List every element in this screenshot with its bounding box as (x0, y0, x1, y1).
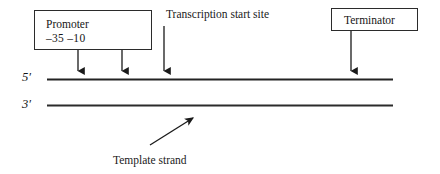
transcription-diagram: Promoter –35 –10 Terminator Transcriptio… (0, 0, 440, 174)
template-strand-label: Template strand (113, 155, 187, 167)
promoter-label: Promoter (46, 18, 89, 30)
promoter-consensus-sites-label: –35 –10 (46, 32, 85, 44)
promoter-box: Promoter –35 –10 (34, 10, 152, 50)
five-prime-label: 5′ (22, 71, 31, 84)
three-prime-label: 3′ (22, 98, 31, 111)
terminator-box: Terminator (331, 8, 418, 31)
template-strand-pointer-arrow (150, 118, 193, 145)
terminator-label: Terminator (344, 14, 395, 26)
transcription-start-site-label: Transcription start site (166, 9, 269, 21)
